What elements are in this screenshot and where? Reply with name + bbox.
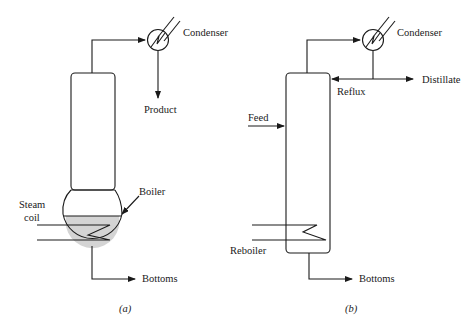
boiler-label: Boiler [139,186,166,197]
column-b [286,73,330,253]
vapor-line-b [307,40,360,73]
distillation-diagram: Condenser Product Boiler Steam coil Bott… [0,0,475,327]
bottoms-line-b [309,253,352,279]
caption-b: (b) [345,303,358,315]
steam-coil-label-line1: Steam [19,199,45,210]
bottoms-label-a: Bottoms [142,273,178,284]
bottoms-label-b: Bottoms [359,273,395,284]
vapor-line-a [92,40,145,73]
boiler-pointer [122,196,139,214]
distillate-label: Distillate [422,74,461,85]
bottoms-line-a [92,246,135,279]
panel-b: Condenser Distillate Reflux Feed Reboile… [230,17,461,315]
condenser-label-a: Condenser [183,27,228,38]
condenser-label-b: Condenser [397,27,442,38]
condenser-icon-b [363,17,396,51]
product-label: Product [144,104,177,115]
steam-coil-label-line2: coil [24,212,40,223]
column-a [71,73,115,190]
condenser-icon-a [148,17,181,51]
reboiler-coil [252,225,326,240]
reboiler-label: Reboiler [230,245,267,256]
boiler-icon [63,190,122,248]
caption-a: (a) [119,303,132,315]
feed-label: Feed [248,112,269,123]
panel-a: Condenser Product Boiler Steam coil Bott… [19,17,228,315]
reflux-label: Reflux [337,86,366,97]
